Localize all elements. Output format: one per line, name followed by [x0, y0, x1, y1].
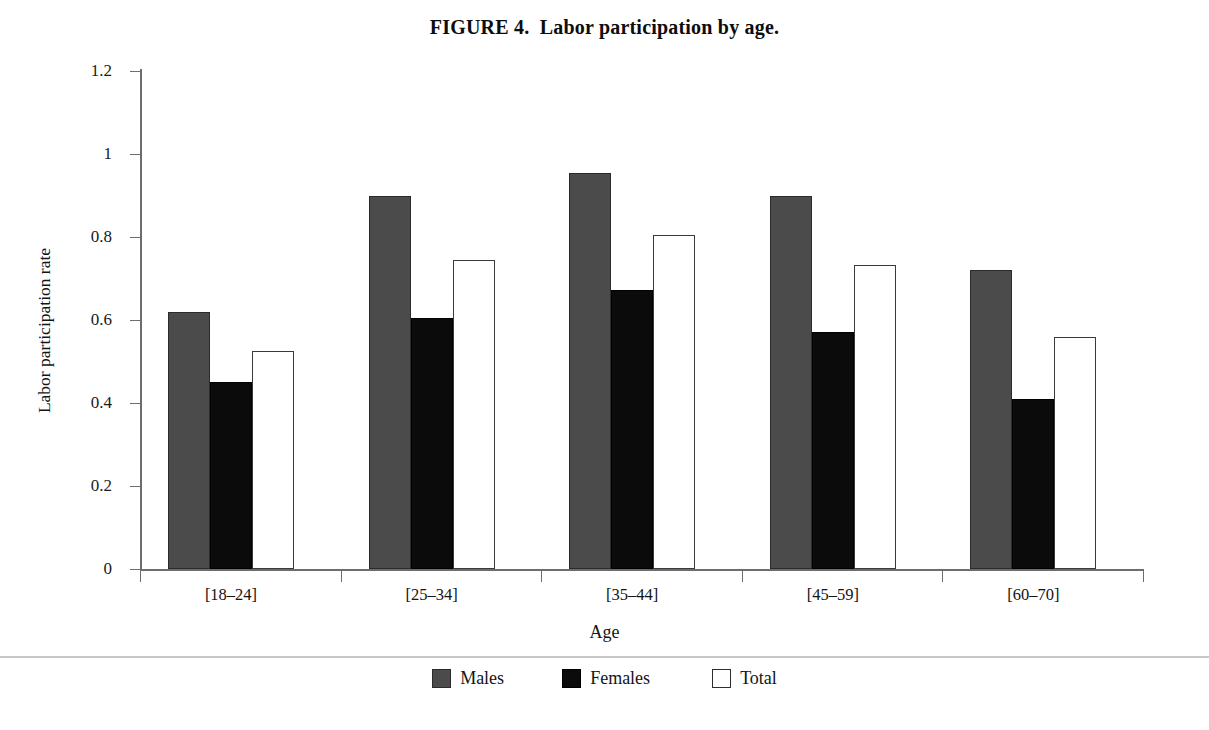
y-axis-tick — [130, 403, 140, 404]
x-axis-category-label: [60–70] — [953, 585, 1113, 605]
males-swatch-icon — [432, 669, 451, 688]
y-axis-tick-label: 1.2 — [52, 61, 112, 81]
y-axis-tick — [130, 320, 140, 321]
y-axis-tick-label: 0.4 — [52, 393, 112, 413]
y-axis-tick-label: 0.2 — [52, 476, 112, 496]
y-axis-tick-label: 0 — [52, 559, 112, 579]
bar-males-1 — [369, 196, 411, 570]
females-swatch-icon — [562, 669, 581, 688]
y-axis-tick-label: 0.6 — [52, 310, 112, 330]
bar-females-1 — [411, 318, 453, 569]
x-axis-line — [140, 569, 1144, 571]
x-axis-category-label: [35–44] — [552, 585, 712, 605]
x-axis-title: Age — [0, 622, 1209, 643]
bar-total-0 — [252, 351, 294, 569]
x-axis-tick — [341, 571, 342, 582]
legend-label: Total — [740, 668, 777, 689]
figure-title: FIGURE 4. Labor participation by age. — [0, 16, 1209, 39]
legend-label: Females — [590, 668, 650, 689]
plot-area — [140, 71, 1143, 569]
y-axis-tick-label: 0.8 — [52, 227, 112, 247]
bar-total-3 — [854, 265, 896, 569]
x-axis-category-label: [45–59] — [753, 585, 913, 605]
bar-males-4 — [970, 270, 1012, 569]
bar-total-1 — [453, 260, 495, 569]
x-axis-tick — [140, 571, 141, 582]
bar-females-3 — [812, 332, 854, 569]
bar-total-2 — [653, 235, 695, 569]
bar-females-4 — [1012, 399, 1054, 569]
total-swatch-icon — [712, 669, 731, 688]
bar-males-3 — [770, 196, 812, 570]
y-axis-tick — [130, 237, 140, 238]
bar-females-2 — [611, 290, 653, 569]
y-axis-tick — [130, 71, 140, 72]
legend-item-females[interactable]: Females — [562, 668, 650, 689]
x-axis-category-label: [18–24] — [151, 585, 311, 605]
legend-item-total[interactable]: Total — [712, 668, 777, 689]
chart-legend: MalesFemalesTotal — [0, 668, 1209, 689]
bar-females-0 — [210, 382, 252, 569]
x-axis-tick — [742, 571, 743, 582]
x-axis-category-label: [25–34] — [352, 585, 512, 605]
y-axis-tick — [130, 154, 140, 155]
page-divider — [0, 656, 1209, 658]
x-axis-tick — [942, 571, 943, 582]
y-axis-title: Labor participation rate — [34, 221, 55, 441]
y-axis-tick — [130, 486, 140, 487]
bar-males-2 — [569, 173, 611, 569]
y-axis-tick-label: 1 — [52, 144, 112, 164]
bar-total-4 — [1054, 337, 1096, 569]
bar-males-0 — [168, 312, 210, 569]
y-axis-tick — [130, 569, 140, 570]
legend-label: Males — [460, 668, 504, 689]
x-axis-tick — [1143, 571, 1144, 582]
x-axis-tick — [541, 571, 542, 582]
legend-item-males[interactable]: Males — [432, 668, 504, 689]
